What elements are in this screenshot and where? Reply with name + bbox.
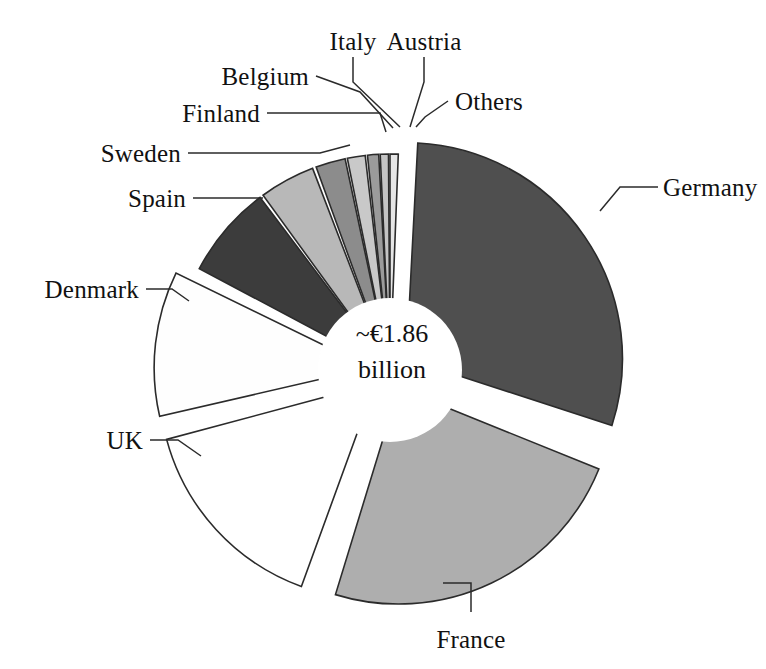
slice-label-finland: Finland (182, 100, 260, 127)
pie-chart-figure: ~€1.86 billion Germany France UK Denmark… (0, 0, 766, 669)
center-total-line1: ~€1.86 (356, 319, 429, 348)
slice-label-france: France (436, 626, 505, 653)
leader-line-sweden (188, 145, 350, 153)
pie-chart-svg: ~€1.86 billion Germany France UK Denmark… (0, 0, 766, 669)
slice-label-austria: Austria (387, 28, 462, 55)
slice-label-others: Others (455, 88, 523, 115)
slice-label-spain: Spain (128, 185, 186, 212)
slice-label-uk: UK (106, 427, 143, 454)
leader-line-germany (600, 187, 658, 211)
leader-line-finland (267, 113, 386, 132)
slice-label-belgium: Belgium (221, 63, 309, 90)
slice-label-germany: Germany (663, 174, 758, 201)
slice-label-denmark: Denmark (45, 276, 140, 303)
leader-line-others (416, 101, 448, 127)
leader-line-austria (410, 57, 424, 127)
slice-label-italy: Italy (330, 28, 377, 55)
slice-label-sweden: Sweden (101, 140, 182, 167)
center-total-line2: billion (358, 355, 426, 384)
